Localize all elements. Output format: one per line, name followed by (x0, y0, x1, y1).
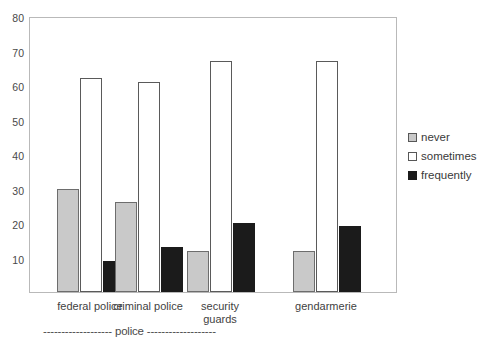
legend-swatch-sometimes-icon (408, 152, 417, 161)
legend-item-frequently[interactable]: frequently (408, 167, 477, 183)
y-axis-tick-label: 30 (12, 185, 24, 196)
x-axis-category-label: gendarmerie (271, 300, 381, 313)
plot-area (30, 18, 396, 292)
bar-frequently[interactable] (233, 223, 255, 292)
bar-frequently[interactable] (339, 226, 361, 292)
y-axis-tick-label: 10 (12, 254, 24, 265)
bar-never[interactable] (187, 251, 209, 292)
legend-item-never[interactable]: never (408, 129, 477, 145)
bar-sometimes[interactable] (316, 61, 338, 292)
legend-label: sometimes (421, 150, 477, 162)
chart-page: 1020304050607080 federal policecriminal … (0, 0, 495, 348)
y-axis-tick-label: 70 (12, 47, 24, 58)
y-axis-tick-label: 50 (12, 116, 24, 127)
legend-swatch-never-icon (408, 133, 417, 142)
y-axis-tick-label: 60 (12, 82, 24, 93)
y-axis-tick-label: 80 (12, 13, 24, 24)
legend-item-sometimes[interactable]: sometimes (408, 148, 477, 164)
legend-label: never (421, 131, 450, 143)
bar-sometimes[interactable] (210, 61, 232, 292)
legend-label: frequently (421, 169, 472, 181)
bar-never[interactable] (57, 189, 79, 293)
y-axis-tick-label: 20 (12, 220, 24, 231)
bar-never[interactable] (115, 202, 137, 292)
x-axis-category-label: security guards (165, 300, 275, 326)
legend: neversometimesfrequently (408, 129, 477, 186)
bar-never[interactable] (293, 251, 315, 292)
bar-sometimes[interactable] (80, 78, 102, 292)
group-bracket-label: ------------------- police -------------… (43, 325, 216, 338)
bar-frequently[interactable] (161, 247, 183, 292)
bar-sometimes[interactable] (138, 82, 160, 292)
plot-frame: 1020304050607080 (29, 17, 397, 293)
y-axis-tick-label: 40 (12, 151, 24, 162)
legend-swatch-frequently-icon (408, 171, 417, 180)
